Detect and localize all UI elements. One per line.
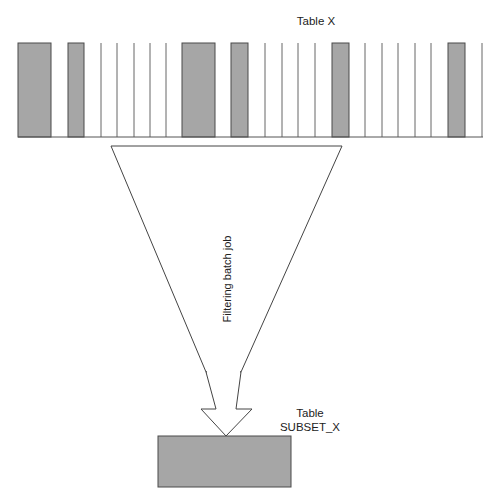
- process-label: Filtering batch job: [221, 236, 233, 323]
- target-table-label-line2: SUBSET_X: [280, 421, 340, 433]
- target-table-label-line1: Table: [296, 407, 324, 419]
- selected-row: [18, 43, 51, 137]
- selected-row: [448, 43, 465, 137]
- selected-row: [182, 43, 215, 137]
- source-table: [18, 43, 483, 137]
- selected-row: [68, 43, 84, 137]
- arrow-down-icon: [201, 372, 252, 436]
- target-table: [158, 436, 291, 487]
- row-dividers: [101, 43, 482, 137]
- diagram-canvas: Table X Filtering batch job Table SUBSET…: [0, 0, 499, 500]
- selected-row: [231, 43, 248, 137]
- selected-row: [332, 43, 349, 137]
- source-table-label: Table X: [297, 15, 336, 27]
